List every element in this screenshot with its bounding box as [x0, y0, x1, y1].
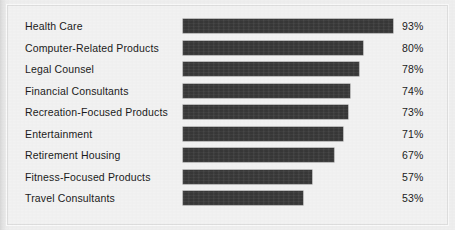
bar-fill — [183, 191, 303, 205]
bar-row: Travel Consultants53% — [0, 188, 455, 208]
bar-category-label: Health Care — [25, 16, 83, 36]
bar-category-label: Fitness-Focused Products — [25, 167, 151, 187]
bar-value-label: 93% — [402, 16, 423, 36]
bar-category-label: Financial Consultants — [25, 81, 129, 101]
bar-value-label: 73% — [402, 102, 423, 122]
bar-fill — [183, 19, 393, 33]
bar-category-label: Retirement Housing — [25, 145, 121, 165]
chart-plot-area: Health Care93%Computer-Related Products8… — [0, 0, 455, 230]
bar-value-label: 80% — [402, 38, 423, 58]
bar-category-label: Entertainment — [25, 124, 92, 144]
bar-row: Fitness-Focused Products57% — [0, 167, 455, 187]
bar-value-label: 74% — [402, 81, 423, 101]
bar-value-label: 71% — [402, 124, 423, 144]
bar-row: Computer-Related Products80% — [0, 38, 455, 58]
bar-row: Entertainment71% — [0, 124, 455, 144]
bar-fill — [183, 105, 348, 119]
bar-row: Financial Consultants74% — [0, 81, 455, 101]
bar-fill — [183, 148, 334, 162]
bar-fill — [183, 62, 359, 76]
bar-row: Retirement Housing67% — [0, 145, 455, 165]
bar-value-label: 67% — [402, 145, 423, 165]
bar-value-label: 57% — [402, 167, 423, 187]
bar-fill — [183, 170, 312, 184]
bar-row: Legal Counsel78% — [0, 59, 455, 79]
bar-row: Recreation-Focused Products73% — [0, 102, 455, 122]
bar-category-label: Computer-Related Products — [25, 38, 159, 58]
bar-category-label: Legal Counsel — [25, 59, 94, 79]
bar-value-label: 78% — [402, 59, 423, 79]
bar-category-label: Recreation-Focused Products — [25, 102, 168, 122]
bar-category-label: Travel Consultants — [25, 188, 115, 208]
bar-fill — [183, 41, 363, 55]
bar-value-label: 53% — [402, 188, 423, 208]
bar-fill — [183, 84, 350, 98]
bar-row: Health Care93% — [0, 16, 455, 36]
bar-chart-figure: Health Care93%Computer-Related Products8… — [0, 0, 455, 230]
bar-fill — [183, 127, 343, 141]
